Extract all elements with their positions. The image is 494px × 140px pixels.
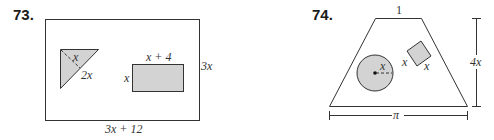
triangle-hypotenuse-label: 2x bbox=[81, 68, 93, 82]
trapezoid-bottom-label: π bbox=[393, 108, 400, 122]
figures-canvas: 73. x 2x x + 4 x 3x 3x + 12 74. 1 x x x … bbox=[0, 0, 494, 140]
circle-radius-label: x bbox=[379, 59, 386, 73]
square-side2-label: x bbox=[423, 59, 430, 73]
problem-74: 74. 1 x x x 4x π bbox=[312, 3, 486, 122]
problem-number-74: 74. bbox=[312, 6, 333, 23]
problem-73: 73. x 2x x + 4 x 3x 3x + 12 bbox=[13, 6, 213, 136]
inner-rect-height-label: x bbox=[123, 71, 130, 85]
trapezoid-top-label: 1 bbox=[396, 3, 402, 17]
outer-rect-height-label: 3x bbox=[200, 59, 213, 73]
triangle-leg-label: x bbox=[72, 50, 79, 64]
inner-rect-width-label: x + 4 bbox=[145, 50, 171, 64]
trapezoid bbox=[330, 19, 468, 107]
problem-number-73: 73. bbox=[13, 6, 34, 23]
square-side1-label: x bbox=[401, 55, 408, 69]
shaded-rectangle bbox=[133, 65, 184, 92]
outer-rect-width-label: 3x + 12 bbox=[104, 122, 142, 136]
trapezoid-height-label: 4x bbox=[470, 55, 482, 69]
